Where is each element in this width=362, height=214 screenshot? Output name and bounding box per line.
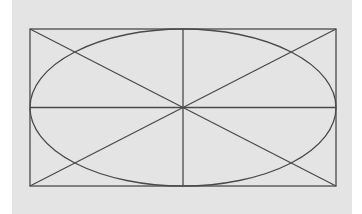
center-lines <box>30 29 336 186</box>
geometric-diagram <box>0 0 362 214</box>
